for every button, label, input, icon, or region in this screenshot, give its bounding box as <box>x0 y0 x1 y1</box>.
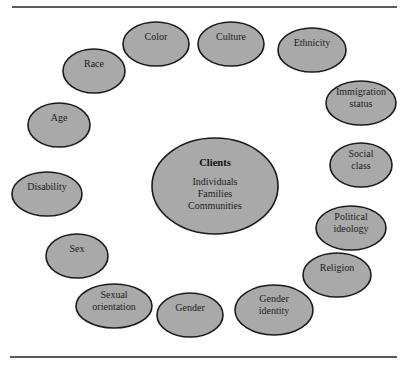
node-ellipse <box>278 28 346 72</box>
node-label: orientation <box>92 301 135 312</box>
node-culture: Culture <box>198 22 264 66</box>
node-ellipse <box>46 234 108 278</box>
node-age: Age <box>28 103 90 147</box>
node-label: Race <box>84 58 105 69</box>
node-ellipse <box>63 49 125 93</box>
center-node-clients: Clients Individuals Families Communities <box>152 138 278 234</box>
node-label: identity <box>259 305 290 316</box>
node-ellipse <box>198 22 264 66</box>
node-label: Disability <box>27 181 66 192</box>
center-title: Clients <box>199 157 231 168</box>
node-sexual-orientation: Sexualorientation <box>76 284 152 328</box>
node-race: Race <box>63 49 125 93</box>
center-label-individuals: Individuals <box>193 176 238 187</box>
node-political-ideology: Politicalideology <box>316 206 386 250</box>
node-label: Sexual <box>100 289 127 300</box>
node-ellipse <box>123 22 189 66</box>
node-sex: Sex <box>46 234 108 278</box>
node-label: status <box>350 98 373 109</box>
node-color: Color <box>123 22 189 66</box>
node-label: Ethnicity <box>294 37 331 48</box>
node-gender-identity: Genderidentity <box>235 285 313 335</box>
node-label: ideology <box>334 223 369 234</box>
node-label: Political <box>334 211 368 222</box>
node-immigration-status: Immigrationstatus <box>326 81 396 125</box>
diversity-factors-diagram: ColorCultureEthnicityImmigrationstatusSo… <box>0 0 405 366</box>
node-ethnicity: Ethnicity <box>278 28 346 72</box>
node-label: Culture <box>216 31 247 42</box>
node-ellipse <box>157 293 223 337</box>
node-label: Sex <box>70 243 85 254</box>
node-gender: Gender <box>157 293 223 337</box>
node-disability: Disability <box>12 172 82 216</box>
node-ellipse <box>303 253 371 297</box>
node-label: Religion <box>320 262 354 273</box>
node-religion: Religion <box>303 253 371 297</box>
node-label: Gender <box>259 293 289 304</box>
node-label: Age <box>51 112 68 123</box>
node-ellipse <box>28 103 90 147</box>
node-label: Social <box>349 148 374 159</box>
node-ellipse <box>12 172 82 216</box>
center-label-communities: Communities <box>188 200 242 211</box>
node-label: Immigration <box>336 86 386 97</box>
center-label-families: Families <box>198 188 233 199</box>
node-social-class: Socialclass <box>330 143 392 187</box>
node-label: class <box>351 160 371 171</box>
node-label: Color <box>145 31 168 42</box>
node-label: Gender <box>175 302 205 313</box>
